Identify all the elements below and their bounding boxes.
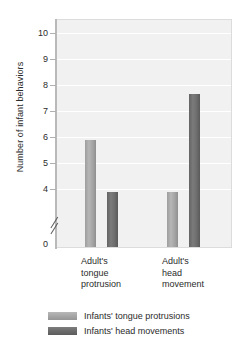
y-axis-tick-label: 0 xyxy=(22,240,48,249)
legend-item: Infants' head movements xyxy=(48,324,190,337)
gridline xyxy=(57,137,231,138)
y-axis-tick xyxy=(50,85,56,86)
legend-item: Infants' tongue protrusions xyxy=(48,309,190,322)
gridline xyxy=(57,111,231,112)
gridline xyxy=(57,33,231,34)
gridline xyxy=(57,85,231,86)
category-label-adults-head-movement: Adult's head movement xyxy=(162,256,204,291)
y-axis-tick xyxy=(50,111,56,112)
y-axis-tick-label: 10 xyxy=(22,29,48,38)
y-axis-tick-label: 7 xyxy=(22,107,48,116)
y-axis-tick-label: 8 xyxy=(22,81,48,90)
legend-item-label: Infants' head movements xyxy=(84,326,184,336)
bar-chart: Number of infant behaviors 10 9 8 7 6 5 … xyxy=(0,0,242,352)
legend-item-label: Infants' tongue protrusions xyxy=(84,311,190,321)
gridline xyxy=(57,189,231,190)
bar-head-movement-infant-tongue xyxy=(167,192,178,247)
y-axis-tick xyxy=(50,137,56,138)
bar-tongue-protrusion-infant-head xyxy=(107,192,118,247)
legend-swatch-icon xyxy=(48,327,77,335)
bar-head-movement-infant-head xyxy=(189,94,200,247)
category-label-adults-tongue-protrusion: Adult's tongue protrusion xyxy=(81,256,121,291)
y-axis-tick-label: 6 xyxy=(22,133,48,142)
y-axis-tick-label: 5 xyxy=(22,159,48,168)
y-axis-tick xyxy=(50,33,56,34)
y-axis-tick xyxy=(50,59,56,60)
gridline xyxy=(57,163,231,164)
axis-break-icon xyxy=(46,215,64,237)
gridline xyxy=(57,59,231,60)
legend: Infants' tongue protrusions Infants' hea… xyxy=(48,309,190,339)
y-axis-tick-label: 4 xyxy=(22,185,48,194)
y-axis-tick xyxy=(50,189,56,190)
bar-tongue-protrusion-infant-tongue xyxy=(85,140,96,247)
plot-area xyxy=(56,19,232,248)
y-axis-tick xyxy=(50,163,56,164)
y-axis-tick-label: 9 xyxy=(22,55,48,64)
y-axis-title: Number of infant behaviors xyxy=(15,27,25,207)
legend-swatch-icon xyxy=(48,312,77,320)
